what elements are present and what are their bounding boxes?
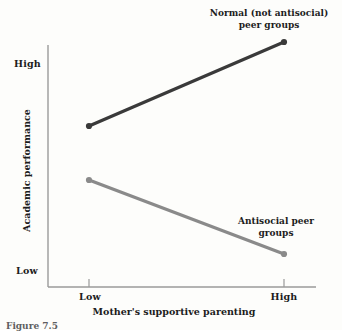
series-point-antisocial-high <box>281 251 287 257</box>
series-point-normal-high <box>281 39 287 45</box>
y-axis-title: Academic performance <box>21 101 32 241</box>
series-line-normal <box>89 42 284 126</box>
y-axis-high-label: High <box>14 58 41 69</box>
series-annotation-antisocial: Antisocial peer groups <box>224 216 328 239</box>
series-annotation-normal-line1: Normal (not antisocial) <box>196 8 342 20</box>
x-axis-high-label: High <box>268 291 300 302</box>
series-annotation-normal-line2: peer groups <box>196 20 342 32</box>
series-annotation-normal: Normal (not antisocial) peer groups <box>196 8 342 31</box>
series-point-antisocial-low <box>86 177 92 183</box>
x-axis-low-label: Low <box>74 291 106 302</box>
figure-caption: Figure 7.5 <box>6 321 58 331</box>
series-annotation-antisocial-line2: groups <box>224 228 328 240</box>
y-axis-low-label: Low <box>16 265 38 276</box>
series-point-normal-low <box>86 123 92 129</box>
series-annotation-antisocial-line1: Antisocial peer <box>224 216 328 228</box>
x-axis-title: Mother's supportive parenting <box>48 306 300 317</box>
